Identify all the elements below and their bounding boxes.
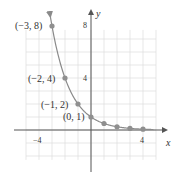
- point-label-neg2: (−2, 4): [28, 73, 55, 85]
- data-point: [75, 101, 80, 106]
- tick-x-4: 4: [140, 136, 144, 145]
- data-point: [101, 121, 106, 126]
- tick-y-4: 4: [83, 74, 87, 83]
- exponential-graph: −4 4 8 4 x y (−3, 8) (−2, 4) (−1, 2) (0,…: [0, 0, 180, 181]
- data-point: [140, 127, 145, 132]
- data-point: [114, 124, 119, 129]
- x-axis-label: x: [165, 137, 171, 148]
- y-axis-label: y: [95, 8, 101, 19]
- point-label-neg1: (−1, 2): [41, 99, 68, 111]
- data-point: [49, 23, 54, 28]
- tick-y-8: 8: [83, 21, 87, 30]
- data-point: [88, 114, 93, 119]
- point-label-neg3: (−3, 8): [15, 20, 42, 32]
- data-point: [127, 126, 132, 131]
- tick-x-neg4: −4: [33, 136, 42, 145]
- point-label-0: (0, 1): [63, 111, 85, 123]
- data-point: [62, 75, 67, 80]
